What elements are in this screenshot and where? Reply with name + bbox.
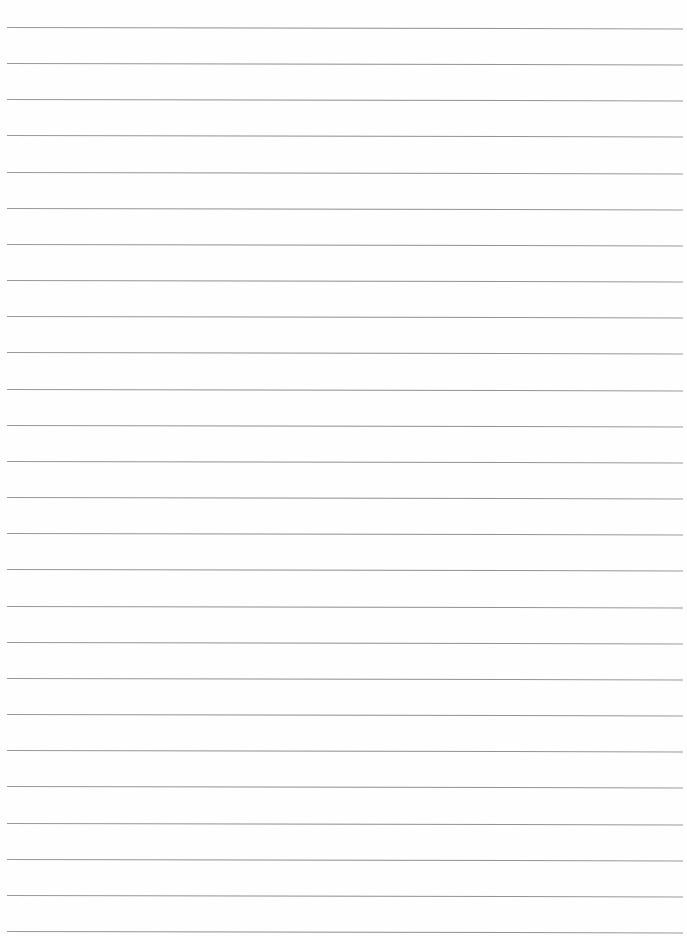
ruled-line [7,497,683,499]
ruled-line [7,786,683,788]
ruled-paper [0,0,687,936]
ruled-line [7,389,683,391]
ruled-line [7,208,683,210]
ruled-line [7,823,683,825]
ruled-line [7,27,683,29]
ruled-line [7,569,683,571]
ruled-line [7,533,683,535]
ruled-line [7,859,683,861]
ruled-line [7,280,683,282]
ruled-line [7,461,683,463]
ruled-line [7,678,683,680]
ruled-line [7,352,683,354]
ruled-line [7,172,683,174]
ruled-line [7,63,683,65]
ruled-line [7,316,683,318]
ruled-line [7,99,683,101]
ruled-line [7,750,683,752]
ruled-line [7,425,683,427]
ruled-line [7,135,683,137]
ruled-line [7,606,683,608]
ruled-line [7,244,683,246]
ruled-line [7,895,683,897]
ruled-line [7,931,683,933]
ruled-line [7,642,683,644]
ruled-line [7,714,683,716]
